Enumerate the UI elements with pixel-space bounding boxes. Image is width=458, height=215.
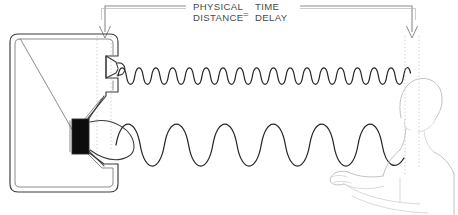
listener-neck: [400, 128, 406, 150]
loudspeaker-cabinet: [10, 34, 118, 192]
woofer-cone-lower: [88, 150, 104, 166]
low-frequency-wave-path: [116, 124, 404, 166]
listener-lap-lower: [352, 196, 428, 213]
illustration-canvas: PHYSICAL DISTANCE = TIME DELAY: [0, 0, 458, 215]
listener-fingers: [334, 181, 351, 183]
listener-hand: [331, 176, 347, 178]
high-frequency-wave: [118, 68, 411, 85]
listener-forearm: [330, 171, 348, 185]
leader-line-right-shadow: [300, 9, 416, 21]
listener-head: [400, 78, 442, 118]
equation-left-denominator: DISTANCE: [193, 12, 244, 23]
high-frequency-wave-path: [118, 68, 411, 85]
listener-chest: [383, 150, 400, 176]
listener-ear: [404, 119, 410, 130]
equation-right-denominator: DELAY: [255, 12, 288, 23]
leader-line-left-shadow: [102, 9, 187, 21]
tweeter-driver: [106, 56, 125, 78]
guide-lines-group: [97, 36, 419, 175]
woofer-cone-upper: [88, 96, 104, 120]
leader-line-right: [300, 6, 412, 18]
tweeter-cone-lower: [106, 69, 118, 78]
low-frequency-wave: [116, 124, 404, 166]
listener-neck-back: [424, 131, 434, 152]
leader-line-left: [105, 6, 186, 18]
woofer-driver: [70, 96, 134, 166]
equation-equals-sign: =: [243, 8, 249, 19]
woofer-magnet: [72, 119, 89, 154]
physical-distance-time-delay-diagram: PHYSICAL DISTANCE = TIME DELAY: [0, 0, 458, 215]
cabinet-inner-outline: [15, 39, 113, 187]
listener-face-profile: [418, 118, 436, 132]
equation-left-numerator: PHYSICAL: [193, 1, 244, 12]
equation-right-numerator: TIME: [255, 1, 279, 12]
equation-label-group: PHYSICAL DISTANCE = TIME DELAY: [193, 1, 288, 23]
listener-upper-arm: [348, 172, 383, 177]
listener-figure: [330, 78, 454, 215]
tweeter-cone-upper: [106, 56, 118, 68]
listener-shoulder: [434, 152, 454, 174]
